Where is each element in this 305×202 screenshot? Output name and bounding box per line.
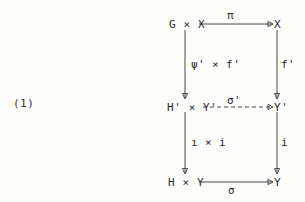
arrow-label-pi: π [227,9,234,22]
diagram-arrows [0,0,305,202]
arrow-right-lower-vertical [274,112,279,174]
node-middle-right: Y' [274,101,288,114]
arrow-left-upper-vertical [182,30,187,99]
arrow-top-horizontal [199,21,273,26]
arrow-label-sigma-prime: σ' [227,94,241,107]
arrow-bottom-horizontal [199,179,273,184]
arrow-left-lower-vertical [182,112,187,174]
arrow-label-iota-times-i: ı × i [191,136,226,149]
arrow-right-upper-vertical [274,30,279,99]
arrow-label-i: i [281,136,288,149]
node-bottom-left: H × Y [168,176,204,189]
diagram-page: (1) [0,0,305,202]
node-bottom-right: Y [274,176,281,189]
arrow-label-sigma: σ [228,184,235,197]
arrow-label-f-prime: f' [281,58,295,71]
node-middle-left: H' × Y' [167,101,218,114]
node-top-right: X [274,18,281,31]
arrow-label-psi-prime-times-f-prime: ψ' × f' [191,58,240,71]
node-top-left: G × X [169,18,205,31]
